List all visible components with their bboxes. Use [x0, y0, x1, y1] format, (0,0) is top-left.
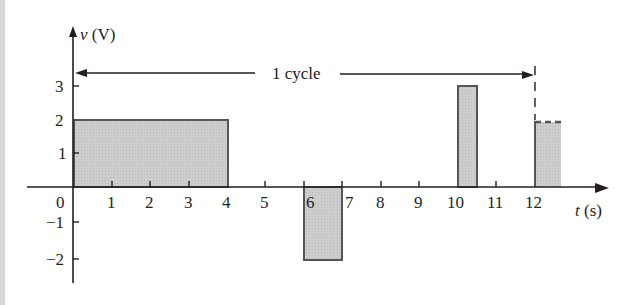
x-tick-label-0: 0 [56, 193, 65, 212]
x-tick-label-12: 12 [525, 193, 542, 212]
x-tick-label-7: 7 [345, 193, 354, 212]
x-tick-label-10: 10 [447, 193, 464, 212]
pulse-12-next-cycle [535, 121, 561, 187]
y-tick-label-neg1: −1 [46, 213, 64, 232]
x-tick-label-9: 9 [414, 193, 423, 212]
x-tick-label-11: 11 [487, 193, 503, 212]
x-tick-label-8: 8 [376, 193, 385, 212]
x-tick-label-3: 3 [184, 193, 193, 212]
y-tick-label-neg2: −2 [46, 250, 64, 269]
cycle-left-arrow-icon [75, 69, 87, 77]
x-tick-label-2: 2 [145, 193, 154, 212]
x-axis-title: t (s) [575, 201, 602, 220]
pulse-0-4 [74, 120, 228, 187]
x-tick-label-4: 4 [222, 193, 231, 212]
cycle-label: 1 cycle [272, 64, 321, 83]
y-tick-label-2: 2 [55, 111, 64, 130]
y-axis-arrow-icon [69, 26, 77, 37]
x-tick-label-6: 6 [306, 193, 315, 212]
y-tick-label-3: 3 [55, 77, 64, 96]
y-axis-title: v (V) [80, 25, 115, 44]
x-tick-label-5: 5 [260, 193, 269, 212]
cycle-right-arrow-icon [522, 71, 534, 79]
x-axis-arrow-icon [595, 183, 609, 193]
pulse-10-10.5 [458, 86, 477, 187]
y-tick-label-1: 1 [58, 144, 67, 163]
x-tick-label-1: 1 [107, 193, 116, 212]
pulse-waveform-chart: 1 cycle v (V) t (s) 3 2 1 −1 −2 0 1 2 3 … [0, 0, 642, 305]
